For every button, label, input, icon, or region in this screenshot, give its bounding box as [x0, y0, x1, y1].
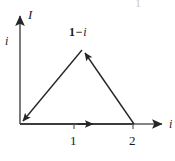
- apex-label-one: 1: [69, 25, 75, 39]
- apex-label-i: i: [83, 25, 87, 39]
- y-axis-label: I: [28, 8, 32, 21]
- triangle-right-edge: [85, 53, 134, 124]
- x-tick-label-2: 2: [129, 134, 136, 147]
- stray-mark: 1: [135, 0, 141, 9]
- apex-label-minus: −: [76, 25, 83, 39]
- x-tick-label-1: 1: [70, 134, 77, 147]
- triangle-left-edge: [23, 50, 82, 121]
- y-axis-secondary-label: i: [5, 35, 8, 47]
- apex-vertex-label: 1−i: [69, 26, 87, 38]
- x-axis-label: i: [169, 118, 172, 130]
- complex-plane-triangle-figure: I i i 1−i 1 2 1: [0, 0, 175, 161]
- diagram-canvas: [0, 0, 175, 161]
